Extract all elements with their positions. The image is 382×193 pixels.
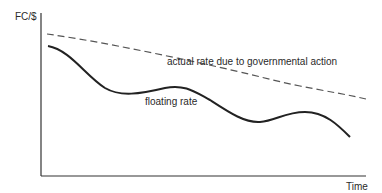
solid-series-label: floating rate [145,96,197,107]
dashed-series-label: actual rate due to governmental action [167,56,337,67]
x-axis-label: Time [346,181,368,192]
y-axis-label: FC/$ [15,11,37,22]
